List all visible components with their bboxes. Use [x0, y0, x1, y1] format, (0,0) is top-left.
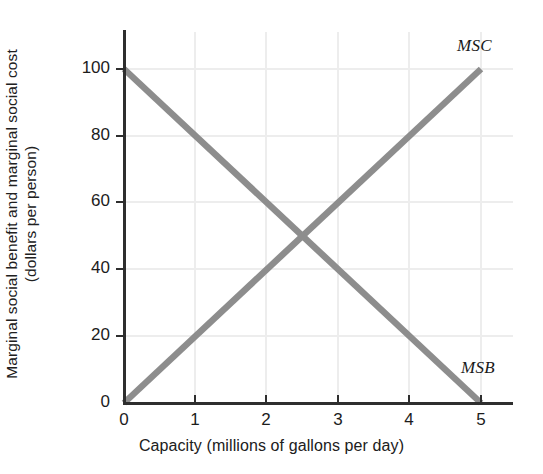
series-label-msb: MSB: [461, 358, 495, 378]
x-tick-label-2: 2: [252, 410, 280, 430]
x-tick-label-4: 4: [395, 410, 423, 430]
x-axis-ticks: [195, 395, 481, 403]
y-tick-label-20: 20: [68, 325, 110, 345]
x-tick-label-0: 0: [110, 410, 138, 430]
grid-vertical: [195, 32, 481, 403]
y-tick-label-80: 80: [68, 125, 110, 145]
grid-horizontal: [124, 69, 513, 336]
x-tick-label-3: 3: [324, 410, 352, 430]
series-label-msc: MSC: [457, 36, 492, 56]
y-tick-label-0: 0: [78, 392, 110, 412]
chart-figure: 0 20 40 60 80 100 0 1 2 3 4 5 MSC MSB Ma…: [0, 0, 543, 474]
y-tick-label-100: 100: [58, 58, 110, 78]
y-axis-ticks: [116, 69, 124, 336]
x-tick-label-1: 1: [181, 410, 209, 430]
y-tick-label-40: 40: [68, 258, 110, 278]
x-axis-title: Capacity (millions of gallons per day): [0, 437, 543, 455]
x-tick-label-5: 5: [467, 410, 495, 430]
y-tick-label-60: 60: [68, 191, 110, 211]
